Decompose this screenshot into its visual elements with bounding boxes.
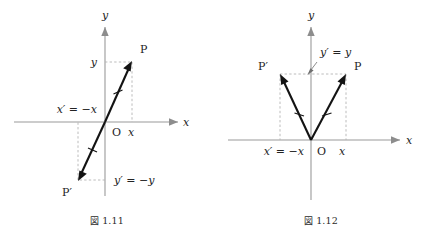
point-label-p-right: P (354, 60, 362, 73)
figure-sheet: y x O P P′ y x x′ = −x y′ = −y 図1.11 (0, 0, 428, 246)
annotation-y-prime-equation-left: y′ = −y (113, 174, 155, 187)
figure-caption-kanji-1-11: 図 (90, 216, 99, 226)
vector-op-arrowhead-left (123, 61, 132, 72)
figure-caption-1-12: 図1.12 (214, 214, 428, 228)
figure-caption-number-1-11: 1.11 (102, 215, 124, 226)
x-axis-label-right: x (406, 134, 413, 147)
diagram-1-12: y x O P P′ x x′ = −x y′ = y (214, 0, 428, 214)
y-axis-arrowhead-right (307, 27, 314, 36)
vector-op-arrowhead-right (338, 74, 347, 85)
x-axis-arrowhead-left (169, 118, 178, 125)
vector-op-left (105, 69, 129, 122)
figure-panel-1-12: y x O P P′ x x′ = −x y′ = y 図1.12 (214, 0, 428, 246)
vector-opprime-arrowhead-left (78, 171, 87, 182)
annotation-x-coordinate-left: x (128, 126, 135, 139)
point-label-pprime-right: P′ (258, 60, 268, 73)
annotation-y-coordinate-left: y (90, 56, 98, 69)
annotation-x-prime-equation-right: x′ = −x (264, 145, 305, 158)
x-axis-arrowhead-right (391, 136, 400, 143)
y-axis-label-right: y (307, 9, 315, 22)
annotation-y-prime-equation-right: y′ = y (319, 46, 352, 59)
vector-op-right (311, 81, 343, 140)
diagram-1-11: y x O P P′ y x x′ = −x y′ = −y (0, 0, 214, 214)
vector-opprime-left (82, 122, 106, 173)
origin-label-left: O (112, 126, 121, 139)
y-axis-label-left: y (101, 9, 109, 22)
annotation-x-coordinate-right: x (339, 145, 346, 158)
figure-caption-number-1-12: 1.12 (316, 215, 338, 226)
origin-label-right: O (317, 145, 326, 158)
y-axis-arrowhead-left (101, 27, 108, 36)
point-label-p-left: P (140, 43, 148, 56)
point-label-pprime-left: P′ (62, 186, 72, 199)
figure-panel-1-11: y x O P P′ y x x′ = −x y′ = −y 図1.11 (0, 0, 214, 246)
vector-opprime-right (284, 81, 312, 140)
figure-caption-1-11: 図1.11 (0, 214, 214, 228)
annotation-x-prime-equation-left: x′ = −x (57, 103, 98, 116)
x-axis-label-left: x (183, 116, 190, 129)
figure-caption-kanji-1-12: 図 (304, 216, 313, 226)
vector-opprime-arrowhead-right (280, 74, 289, 85)
